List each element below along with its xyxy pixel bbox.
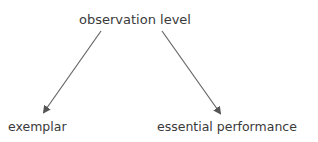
node-essential-performance: essential performance	[157, 121, 297, 134]
edge-root-to-exemplar	[44, 31, 101, 112]
node-exemplar: exemplar	[8, 121, 67, 134]
edge-root-to-essential-performance	[162, 31, 220, 113]
node-observation-level: observation level	[79, 13, 191, 26]
